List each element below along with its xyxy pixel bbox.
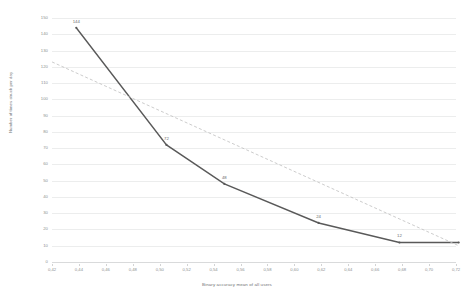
x-axis-tick-mark bbox=[133, 264, 134, 266]
x-axis-tick-label: 0,62 bbox=[317, 268, 325, 272]
x-axis-tick-label: 0,50 bbox=[156, 268, 164, 272]
x-axis-tick-label: 0,46 bbox=[102, 268, 110, 272]
y-axis-title: Number of times struck per day bbox=[8, 43, 13, 163]
series-path bbox=[76, 28, 458, 243]
data-point-label: 24 bbox=[316, 215, 321, 219]
x-axis-tick-label: 0,48 bbox=[129, 268, 137, 272]
x-axis-tick-mark bbox=[402, 264, 403, 266]
data-point-marker bbox=[75, 27, 77, 29]
x-axis-tick-label: 0,72 bbox=[452, 268, 460, 272]
x-axis-tick-label: 0,44 bbox=[75, 268, 83, 272]
data-point-label: 12 bbox=[397, 234, 402, 238]
x-axis-tick-label: 0,54 bbox=[210, 268, 218, 272]
x-axis-tick-label: 0,58 bbox=[263, 268, 271, 272]
x-axis-tick-labels: 0,420,440,460,480,500,520,540,560,580,60… bbox=[52, 264, 456, 276]
x-axis-tick-mark bbox=[321, 264, 322, 266]
data-point-marker bbox=[398, 241, 400, 243]
x-axis-title: Binary accuracy mean of all users bbox=[0, 282, 474, 287]
y-axis-tick-label: 100 bbox=[41, 97, 48, 101]
data-point-marker bbox=[165, 144, 167, 146]
x-axis-tick-mark bbox=[456, 264, 457, 266]
x-axis-tick-mark bbox=[348, 264, 349, 266]
y-axis-tick-labels: 1501401301201101009080706050403020100 bbox=[28, 18, 48, 262]
x-axis-tick-mark bbox=[267, 264, 268, 266]
x-axis-tick-mark bbox=[106, 264, 107, 266]
y-axis-tick-label: 50 bbox=[43, 179, 48, 183]
y-axis-tick-label: 80 bbox=[43, 130, 48, 134]
x-axis-tick-label: 0,42 bbox=[48, 268, 56, 272]
x-axis-tick-label: 0,68 bbox=[398, 268, 406, 272]
y-axis-tick-label: 40 bbox=[43, 195, 48, 199]
y-axis-tick-label: 0 bbox=[46, 260, 48, 264]
data-point-marker bbox=[318, 222, 320, 224]
x-axis-tick-label: 0,56 bbox=[236, 268, 244, 272]
x-axis-tick-label: 0,52 bbox=[183, 268, 191, 272]
x-axis-tick-mark bbox=[294, 264, 295, 266]
y-axis-tick-label: 30 bbox=[43, 211, 48, 215]
x-axis-tick-mark bbox=[160, 264, 161, 266]
data-point-marker bbox=[458, 241, 460, 243]
gridline bbox=[52, 262, 456, 263]
y-axis-tick-label: 20 bbox=[43, 227, 48, 231]
x-axis-tick-mark bbox=[187, 264, 188, 266]
series-lines bbox=[52, 18, 456, 262]
y-axis-tick-label: 110 bbox=[41, 81, 48, 85]
y-axis-tick-label: 70 bbox=[43, 146, 48, 150]
y-axis-tick-label: 150 bbox=[41, 16, 48, 20]
x-axis-tick-mark bbox=[375, 264, 376, 266]
x-axis-tick-mark bbox=[52, 264, 53, 266]
x-axis-tick-mark bbox=[241, 264, 242, 266]
data-point-label: 72 bbox=[164, 137, 169, 141]
x-axis-tick-label: 0,64 bbox=[344, 268, 352, 272]
data-point-marker bbox=[223, 183, 225, 185]
x-axis-tick-mark bbox=[214, 264, 215, 266]
y-axis-tick-label: 60 bbox=[43, 162, 48, 166]
y-axis-tick-label: 130 bbox=[41, 49, 48, 53]
data-point-label: 48 bbox=[222, 176, 227, 180]
x-axis-tick-label: 0,66 bbox=[371, 268, 379, 272]
y-axis-tick-label: 140 bbox=[41, 32, 48, 36]
x-axis-tick-label: 0,70 bbox=[425, 268, 433, 272]
x-axis-tick-label: 0,60 bbox=[290, 268, 298, 272]
data-point-label: 144 bbox=[73, 20, 80, 24]
x-axis-tick-mark bbox=[79, 264, 80, 266]
chart-container: 1501401301201101009080706050403020100 14… bbox=[0, 0, 474, 300]
x-axis-tick-mark bbox=[429, 264, 430, 266]
y-axis-tick-label: 120 bbox=[41, 65, 48, 69]
y-axis-tick-label: 90 bbox=[43, 114, 48, 118]
y-axis-tick-label: 10 bbox=[43, 244, 48, 248]
trendline-path bbox=[52, 62, 459, 246]
plot-area: 14472482412 bbox=[52, 18, 456, 262]
